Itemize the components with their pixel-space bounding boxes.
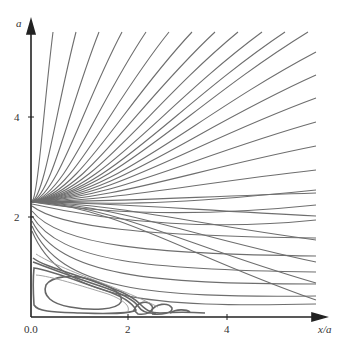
- y-axis-arrow-icon: [27, 20, 35, 34]
- streamline-upper: [32, 202, 316, 262]
- streamline-lower: [32, 231, 316, 305]
- streamline-upper: [32, 122, 316, 202]
- streamline-upper: [32, 98, 316, 202]
- x-axis-label: x/a: [317, 323, 332, 335]
- x-tick-label-2: 2: [125, 323, 131, 335]
- y-axis-label: a: [16, 17, 22, 29]
- streamline-lower: [32, 216, 316, 272]
- x-tick-label-0: 0.0: [24, 323, 38, 335]
- streamline-upper: [32, 32, 122, 202]
- streamlines: [32, 32, 316, 305]
- streamline-upper: [32, 32, 262, 202]
- x-axis-arrow-icon: [312, 313, 326, 321]
- y-tick-label-2: 2: [14, 211, 20, 223]
- streamline-upper: [32, 32, 99, 202]
- x-tick-label-4: 4: [224, 323, 230, 335]
- streamline-mid: [32, 202, 316, 213]
- streamline-lower: [32, 206, 316, 238]
- y-tick-label-4: 4: [14, 111, 20, 123]
- streamline-chart: 0.0 2 4 2 4 x/a a: [0, 0, 349, 350]
